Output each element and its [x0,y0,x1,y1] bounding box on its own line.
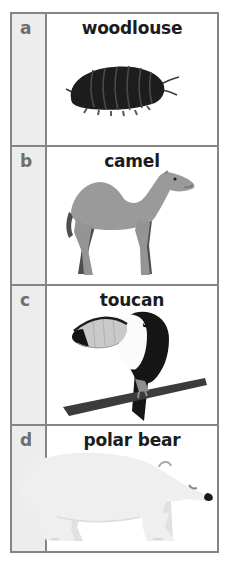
animal-table: a woodlouse [10,12,219,553]
woodlouse-illustration [63,60,181,120]
row-content-b: camel [47,147,217,284]
worksheet-page: a woodlouse [0,0,228,572]
animal-label-woodlouse: woodlouse [47,18,217,38]
table-row-d: d polar bear [12,426,217,551]
row-content-a: woodlouse [47,14,217,145]
table-row-b: b camel [12,147,217,286]
row-letter-b: b [12,147,47,284]
camel-body [71,172,194,230]
table-row-a: a woodlouse [12,14,217,147]
row-letter-a: a [12,14,47,145]
table-row-c: c toucan [12,286,217,426]
animal-label-toucan: toucan [47,290,217,310]
row-letter-c: c [12,286,47,424]
toucan-illustration [59,305,211,423]
camel-illustration [56,168,208,280]
polar-bear-illustration [13,443,216,549]
animal-label-camel: camel [47,151,217,171]
row-content-c: toucan [47,286,217,424]
animal-label-polar-bear: polar bear [47,430,217,450]
